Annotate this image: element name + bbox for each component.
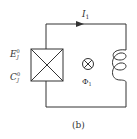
inductor-coil-icon [113, 50, 127, 82]
junction-capacitance-label: C0J [10, 71, 20, 84]
current-label: I1 [81, 9, 89, 20]
figure-caption: (b) [72, 120, 85, 130]
junction-energy-label: E0J [9, 48, 20, 61]
josephson-junction-icon [31, 49, 63, 81]
flux-into-page-icon [83, 59, 94, 70]
circuit-diagram: I1 E0J C0J Φ1 (b) [0, 0, 137, 139]
current-arrow-icon [76, 21, 84, 27]
flux-label: Φ1 [82, 77, 92, 87]
